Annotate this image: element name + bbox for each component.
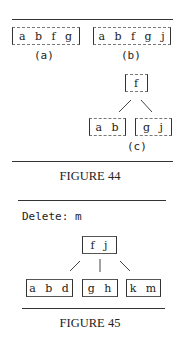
- operation-text: Delete: m: [22, 210, 82, 223]
- label-c: (c): [127, 140, 147, 153]
- node-c-left-keys: a b: [95, 121, 121, 134]
- node-45-child-3: k m: [126, 279, 161, 297]
- node-45-child-3-keys: k m: [130, 282, 160, 295]
- node-45-child-2: g h: [82, 279, 118, 297]
- node-45-root: f j: [82, 236, 117, 254]
- mid-rule-44: [12, 161, 173, 162]
- node-c-right: g j: [135, 118, 172, 136]
- node-c-right-keys: g j: [143, 121, 166, 134]
- node-45-child-2-keys: g h: [88, 282, 115, 295]
- top-rule-45: [18, 200, 166, 201]
- node-45-child-1-keys: a b d: [29, 282, 72, 295]
- caption-figure-45: FIGURE 45: [0, 316, 180, 331]
- bottom-rule-45: [22, 308, 165, 309]
- node-c-left: a b: [89, 118, 126, 136]
- node-45-child-1: a b d: [26, 279, 73, 297]
- caption-figure-44: FIGURE 44: [0, 169, 180, 184]
- node-45-root-keys: f j: [91, 239, 111, 252]
